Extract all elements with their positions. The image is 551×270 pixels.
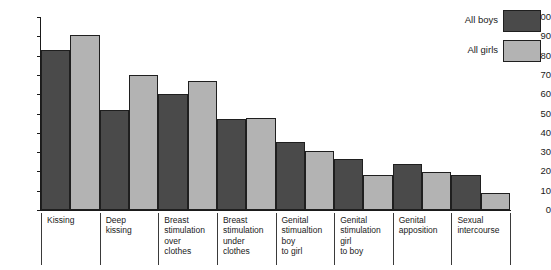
bar (276, 142, 305, 210)
y-axis-tick-label: 10 (517, 186, 551, 196)
bar (158, 94, 187, 210)
bar (363, 175, 392, 210)
x-axis-label: Breast stimulation under clothes (223, 215, 274, 257)
legend-label-all-girls: All girls (467, 44, 498, 55)
bar-chart: 0102030405060708090100 KissingDeep kissi… (0, 0, 551, 270)
legend-label-all-boys: All boys (465, 14, 498, 25)
category-separator (100, 213, 101, 265)
bar (393, 164, 422, 210)
x-axis-label: Kissing (47, 215, 98, 225)
category-separator (334, 213, 335, 265)
category-separator (451, 213, 452, 265)
x-axis-label: Breast stimulation over clothes (164, 215, 215, 257)
x-axis-label: Genital stimualtion boy to girl (282, 215, 333, 257)
y-axis-tick-label: 20 (517, 167, 551, 177)
bar (451, 175, 480, 210)
x-axis-label: Sexual intercourse (457, 215, 508, 236)
x-axis-label: Deep kissing (106, 215, 157, 236)
legend: All boys All girls (404, 10, 544, 62)
bar (217, 119, 246, 210)
legend-item-all-girls: All girls (404, 40, 544, 62)
bar (246, 118, 275, 210)
y-axis-tick-label: 0 (517, 205, 551, 215)
bar (481, 193, 510, 210)
y-axis-tick-label: 30 (517, 147, 551, 157)
category-separator (158, 213, 159, 265)
category-separator (41, 213, 42, 265)
y-axis-tick-label: 40 (517, 128, 551, 138)
category-separator (276, 213, 277, 265)
x-axis-label: Genital apposition (399, 215, 450, 236)
category-separator (510, 213, 511, 265)
bar (100, 110, 129, 210)
legend-swatch-all-boys (503, 10, 541, 32)
y-axis-tick-label: 70 (517, 70, 551, 80)
bar (129, 75, 158, 210)
bar (305, 151, 334, 210)
legend-item-all-boys: All boys (404, 10, 544, 32)
bar (334, 159, 363, 210)
x-axis-line (40, 210, 511, 211)
bar (188, 81, 217, 210)
bar (41, 50, 70, 210)
x-axis-label: Genital stimulation girl to boy (340, 215, 391, 257)
category-separator (393, 213, 394, 265)
bar (70, 35, 99, 210)
bar (422, 172, 451, 210)
legend-swatch-all-girls (503, 40, 541, 62)
y-axis-tick-label: 50 (517, 109, 551, 119)
category-separator (217, 213, 218, 265)
y-axis-tick-label: 60 (517, 89, 551, 99)
